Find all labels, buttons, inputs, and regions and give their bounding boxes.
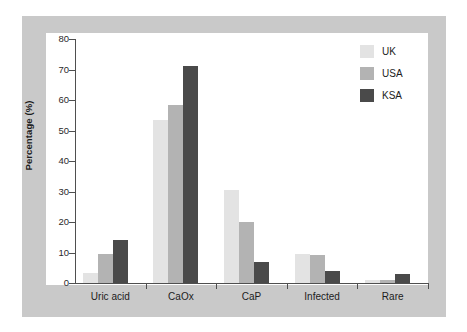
x-tick-label: Rare (357, 291, 428, 302)
bar-uk-infected (295, 254, 310, 283)
bar-ksa-uric-acid (113, 240, 128, 283)
bar-uk-rare (365, 280, 380, 283)
x-tick-mark (287, 283, 288, 289)
bar-ksa-caox (183, 66, 198, 283)
bar-uk-caox (153, 120, 168, 283)
legend-item-ksa: KSA (360, 89, 430, 102)
figure: Percentage (%) 01020304050607080 Uric ac… (0, 0, 467, 332)
bar-uk-uric-acid (83, 273, 98, 283)
legend-label: KSA (382, 91, 402, 101)
legend-label: UK (382, 47, 396, 57)
y-tick-label-wrap: 30 (36, 192, 69, 193)
y-tick-label-wrap: 50 (36, 131, 69, 132)
y-axis-line (75, 39, 76, 284)
y-tick-label: 60 (43, 95, 69, 105)
y-tick-label-wrap: 10 (36, 253, 69, 254)
x-tick-label: CaP (216, 291, 287, 302)
y-tick-label: 30 (43, 187, 69, 197)
legend-swatch-usa (360, 67, 374, 80)
y-tick-label-wrap: 70 (36, 70, 69, 71)
bar-usa-cap (239, 222, 254, 283)
x-tick-mark (146, 283, 147, 289)
y-tick-label: 40 (43, 156, 69, 166)
x-tick-mark (357, 283, 358, 289)
x-tick-mark (428, 283, 429, 289)
bar-usa-infected (310, 255, 325, 283)
bar-ksa-rare (395, 274, 410, 283)
y-tick-label: 0 (43, 278, 69, 288)
bar-usa-caox (168, 105, 183, 283)
y-tick-label-wrap: 40 (36, 161, 69, 162)
y-tick-label: 50 (43, 126, 69, 136)
legend-item-usa: USA (360, 67, 430, 80)
y-axis-title: Percentage (%) (23, 91, 34, 181)
y-tick-label-wrap: 60 (36, 100, 69, 101)
legend-item-uk: UK (360, 45, 430, 58)
y-tick-label: 80 (43, 34, 69, 44)
x-tick-label: CaOx (146, 291, 217, 302)
legend-swatch-ksa (360, 89, 374, 102)
legend-swatch-uk (360, 45, 374, 58)
bar-ksa-cap (254, 262, 269, 283)
y-tick-label: 10 (43, 248, 69, 258)
bar-usa-rare (380, 280, 395, 283)
bar-uk-cap (224, 190, 239, 283)
y-tick-label-wrap: 20 (36, 222, 69, 223)
x-tick-label: Infected (287, 291, 358, 302)
y-tick-label-wrap: 80 (36, 39, 69, 40)
bar-ksa-infected (325, 271, 340, 283)
x-tick-mark (216, 283, 217, 289)
y-tick-label-wrap: 0 (36, 283, 69, 284)
x-axis-line (75, 283, 428, 284)
x-tick-label: Uric acid (75, 291, 146, 302)
legend-label: USA (382, 69, 403, 79)
bar-usa-uric-acid (98, 254, 113, 283)
y-tick-label: 20 (43, 217, 69, 227)
y-tick-label: 70 (43, 65, 69, 75)
legend: UKUSAKSA (360, 45, 430, 111)
